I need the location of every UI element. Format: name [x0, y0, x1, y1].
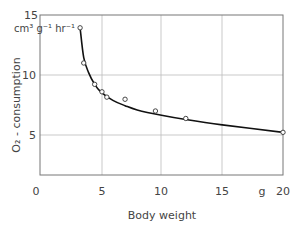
- x-tick-20: 20: [276, 185, 290, 198]
- data-point: [105, 95, 109, 99]
- y-tick-5: 5: [29, 129, 36, 142]
- x-tick-0: 0: [33, 185, 40, 198]
- chart: 15 10 5 cm³ g⁻¹ hr⁻¹ O₂ - consumption 0 …: [0, 0, 294, 232]
- x-axis-title: Body weight: [128, 209, 197, 222]
- x-tick-10: 10: [154, 185, 168, 198]
- data-point: [92, 82, 96, 86]
- data-point: [82, 61, 86, 65]
- data-point: [100, 90, 104, 94]
- data-point: [153, 109, 157, 113]
- data-point: [123, 97, 127, 101]
- y-unit-label: cm³ g⁻¹ hr⁻¹: [14, 23, 75, 34]
- y-axis-title: O₂ - consumption: [10, 57, 23, 152]
- y-tick-10: 10: [22, 69, 36, 82]
- x-tick-15: 15: [215, 185, 229, 198]
- data-point: [184, 116, 188, 120]
- x-tick-5: 5: [99, 185, 106, 198]
- y-tick-15: 15: [24, 9, 38, 22]
- data-point: [78, 26, 82, 30]
- fitted-curve: [80, 28, 283, 133]
- plot-frame: [40, 15, 283, 175]
- x-unit-label: g: [259, 185, 266, 198]
- data-point: [281, 130, 285, 134]
- gridlines: [40, 15, 283, 175]
